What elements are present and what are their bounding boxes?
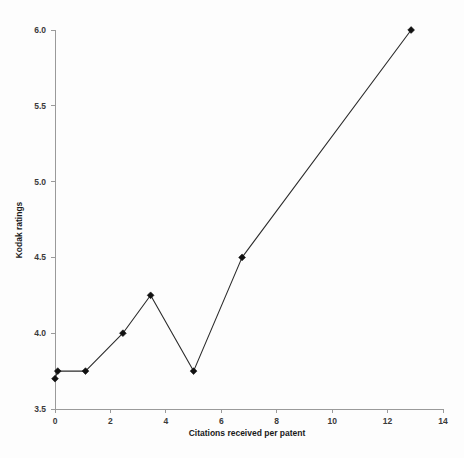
x-tick-label: 12 <box>383 416 393 426</box>
x-tick-label: 2 <box>108 416 113 426</box>
y-axis-title: Kodak ratings <box>14 201 24 258</box>
x-tick-label: 8 <box>274 416 279 426</box>
y-tick-label: 5.5 <box>34 101 46 111</box>
line-chart: 3.54.04.55.05.56.0 02468101214 Citations… <box>0 0 464 458</box>
y-tick-label: 4.5 <box>34 252 46 262</box>
data-markers <box>52 27 415 382</box>
series-line <box>55 30 411 379</box>
data-point-marker <box>190 368 197 375</box>
x-tick-label: 4 <box>163 416 168 426</box>
y-axis: 3.54.04.55.05.56.0 <box>34 25 55 414</box>
y-tick-label: 5.0 <box>34 177 46 187</box>
x-tick-label: 0 <box>53 416 58 426</box>
y-tick-label: 4.0 <box>34 328 46 338</box>
x-tick-label: 10 <box>327 416 337 426</box>
data-series <box>55 30 411 379</box>
chart-container: 3.54.04.55.05.56.0 02468101214 Citations… <box>0 0 464 458</box>
x-tick-label: 6 <box>219 416 224 426</box>
y-tick-label: 3.5 <box>34 404 46 414</box>
x-axis: 02468101214 <box>53 409 448 426</box>
data-point-marker <box>52 375 59 382</box>
x-axis-title: Citations received per patent <box>189 428 306 438</box>
y-tick-label: 6.0 <box>34 25 46 35</box>
x-tick-label: 14 <box>438 416 448 426</box>
